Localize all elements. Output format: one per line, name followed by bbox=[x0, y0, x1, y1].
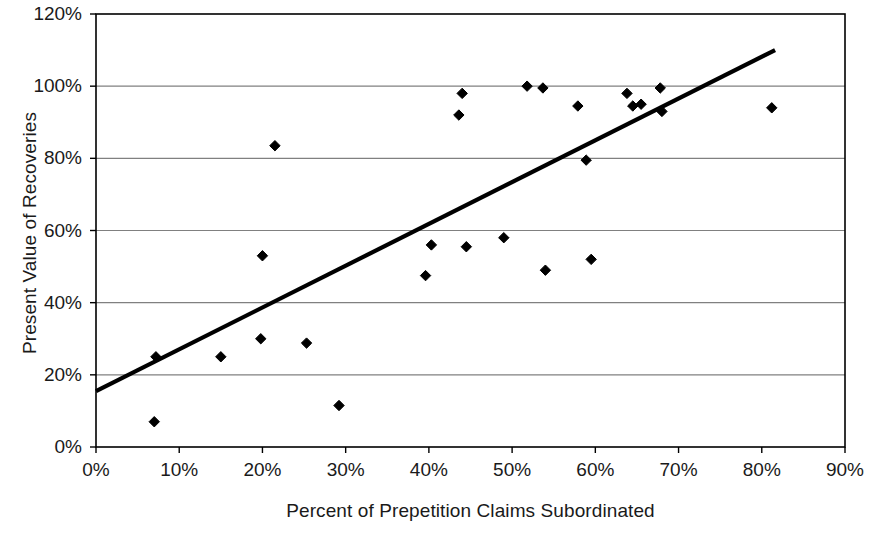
data-point-marker bbox=[301, 338, 311, 348]
data-point-marker bbox=[499, 233, 509, 243]
data-point-marker bbox=[586, 254, 596, 264]
data-point-marker bbox=[573, 101, 583, 111]
data-point-marker bbox=[149, 417, 159, 427]
scatter-chart: Present Value of Recoveries Percent of P… bbox=[0, 0, 875, 541]
axis-ticks bbox=[90, 14, 845, 453]
data-point-marker bbox=[622, 88, 632, 98]
data-point-marker bbox=[540, 265, 550, 275]
data-point-marker bbox=[426, 240, 436, 250]
data-point-marker bbox=[522, 81, 532, 91]
data-point-marker bbox=[256, 334, 266, 344]
data-point-marker bbox=[636, 99, 646, 109]
trendline bbox=[96, 50, 775, 391]
data-point-marker bbox=[628, 101, 638, 111]
data-point-marker bbox=[538, 83, 548, 93]
data-point-marker bbox=[420, 270, 430, 280]
data-point-marker bbox=[454, 110, 464, 120]
data-point-marker bbox=[457, 88, 467, 98]
data-point-marker bbox=[461, 242, 471, 252]
plot-area bbox=[0, 0, 875, 541]
data-point-marker bbox=[581, 155, 591, 165]
data-point-marker bbox=[216, 352, 226, 362]
data-point-marker bbox=[270, 141, 280, 151]
gridlines bbox=[96, 86, 845, 375]
data-point-marker bbox=[257, 251, 267, 261]
data-point-marker bbox=[767, 103, 777, 113]
data-point-marker bbox=[655, 83, 665, 93]
data-point-marker bbox=[334, 400, 344, 410]
